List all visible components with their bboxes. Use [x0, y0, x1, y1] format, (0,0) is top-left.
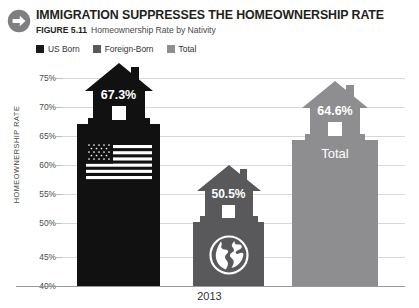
bar-label-total: Total	[292, 146, 378, 161]
tickmark-50	[56, 223, 62, 224]
y-tick-label-55: 55%	[22, 189, 56, 199]
house-icon-us-born: 67.3%	[84, 62, 154, 126]
legend-label-us-born: US Born	[48, 44, 80, 54]
legend-label-foreign-born: Foreign-Born	[105, 44, 154, 54]
data-label-us-born: 67.3%	[84, 88, 154, 102]
bar-total[interactable]: Total 64.6%	[292, 140, 378, 286]
bar-us-born[interactable]: 67.3%	[77, 124, 160, 286]
figure-caption-text: Homeownership Rate by Nativity	[91, 25, 216, 35]
data-label-foreign-born: 50.5%	[196, 187, 262, 201]
tickmark-45	[56, 257, 62, 258]
chart-header: IMMIGRATION SUPPRESSES THE HOMEOWNERSHIP…	[0, 0, 419, 60]
legend-swatch-us-born	[36, 45, 44, 53]
page-title: IMMIGRATION SUPPRESSES THE HOMEOWNERSHIP…	[36, 8, 406, 22]
y-tick-label-45: 45%	[22, 252, 56, 262]
legend-item-us-born[interactable]: US Born	[36, 44, 80, 54]
chart-legend: US Born Foreign-Born Total	[36, 42, 209, 56]
us-flag-icon	[86, 142, 152, 180]
data-label-total: 64.6%	[301, 104, 369, 118]
tickmark-75	[56, 78, 62, 79]
y-tick-label-65: 65%	[22, 131, 56, 141]
y-tick-label-50: 50%	[22, 218, 56, 228]
legend-item-foreign-born[interactable]: Foreign-Born	[93, 44, 154, 54]
tickmark-70	[56, 107, 62, 108]
y-tick-label-60: 60%	[22, 160, 56, 170]
circle-arrow-right-icon	[7, 9, 31, 33]
bar-foreign-born[interactable]: 50.5%	[193, 222, 264, 286]
y-tick-label-75: 75%	[22, 73, 56, 83]
x-axis-label: 2013	[0, 290, 419, 302]
legend-item-total[interactable]: Total	[167, 44, 197, 54]
house-icon-total: 64.6%	[301, 80, 369, 142]
globe-icon	[208, 234, 250, 276]
y-tick-label-70: 70%	[22, 102, 56, 112]
bar-rect-total	[292, 140, 378, 286]
chart-plot-area: HOMEOWNERSHIP RATE 75% 70% 65% 60% 55% 5…	[0, 60, 419, 308]
figure-number: FIGURE 5.11	[36, 25, 87, 35]
legend-label-total: Total	[179, 44, 197, 54]
tickmark-55	[56, 194, 62, 195]
tickmark-65	[56, 136, 62, 137]
legend-swatch-foreign-born	[93, 45, 101, 53]
house-icon-foreign-born: 50.5%	[196, 164, 262, 224]
x-axis-line	[16, 286, 405, 287]
figure-caption: FIGURE 5.11Homeownership Rate by Nativit…	[36, 25, 406, 36]
y-axis-label: HOMEOWNERSHIP RATE	[12, 95, 21, 215]
tickmark-60	[56, 165, 62, 166]
legend-swatch-total	[167, 45, 175, 53]
